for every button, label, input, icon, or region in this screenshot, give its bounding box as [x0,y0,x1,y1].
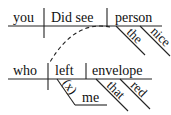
rel-subject: who [13,63,37,78]
rel-object: envelope [92,63,143,78]
relative-connector [50,26,110,62]
modifier-red: red [128,78,151,101]
indirect-object: me [82,90,99,105]
main-subject: you [13,10,34,25]
main-verb: Did see [51,10,93,25]
sentence-diagram: you Did see person the nice who left env… [0,0,171,115]
modifier-that: that [104,78,129,103]
main-object: person [115,10,152,25]
